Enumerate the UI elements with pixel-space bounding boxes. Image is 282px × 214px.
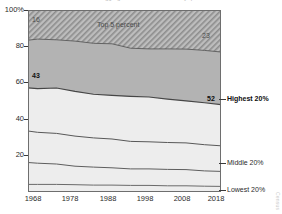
- y-tick-label: 40: [16, 115, 24, 123]
- series-label-middle: Middle 20%: [227, 159, 264, 167]
- leader-line-middle: [219, 163, 226, 164]
- y-tick-label: 20: [16, 151, 24, 159]
- x-axis: 1968 1978 1988 1998 2008 2018: [0, 194, 282, 208]
- y-axis: 100% 80 60 40 20: [0, 0, 27, 214]
- x-tick-label: 1968: [25, 194, 42, 203]
- y-tick-label: 100%: [5, 6, 24, 14]
- annotation-top5-start: 16: [32, 16, 40, 24]
- leader-line-lowest: [219, 190, 226, 191]
- y-tick-label: 60: [16, 78, 24, 86]
- chart-figure: Shares of aggregate household income by …: [0, 0, 282, 214]
- chart-title-cutoff: Shares of aggregate household income by …: [0, 0, 282, 4]
- leader-line-highest: [219, 99, 226, 100]
- chart-credit: Census: [275, 192, 281, 210]
- series-label-highest: Highest 20%: [227, 95, 269, 103]
- x-tick-label: 2008: [174, 194, 191, 203]
- stacked-area-svg: [28, 10, 221, 192]
- annotation-highest-end: 52: [207, 95, 215, 103]
- annotation-top5-label: Top 5 percent: [97, 21, 139, 28]
- plot-area: 16 23 Top 5 percent 43: [28, 10, 221, 192]
- annotation-highest-start: 43: [32, 72, 40, 80]
- series-label-lowest: Lowest 20%: [227, 186, 265, 194]
- y-tick-label: 80: [16, 42, 24, 50]
- x-tick-label: 2018: [208, 194, 225, 203]
- x-tick-label: 1988: [100, 194, 117, 203]
- x-tick-label: 1998: [137, 194, 154, 203]
- annotation-top5-end: 23: [202, 32, 210, 40]
- x-tick-label: 1978: [62, 194, 79, 203]
